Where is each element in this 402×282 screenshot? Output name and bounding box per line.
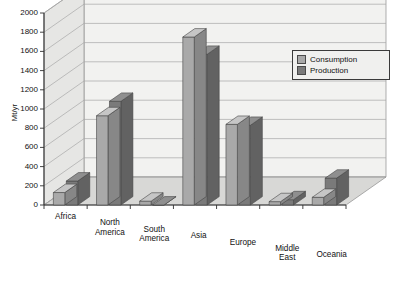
- chart-container: Mt/yr 0200400600800100012001400160018002…: [0, 0, 402, 282]
- bar-asia-consumption: [183, 29, 206, 205]
- y-axis-tick-label: 600: [2, 142, 38, 151]
- legend-label-production: Production: [310, 66, 348, 75]
- legend-label-consumption: Consumption: [310, 55, 357, 64]
- chart-legend: Consumption Production: [292, 50, 390, 80]
- y-axis-tick-label: 1400: [2, 66, 38, 75]
- legend-item-production: Production: [297, 65, 383, 76]
- legend-swatch-production: [297, 66, 306, 75]
- y-axis-tick-label: 0: [2, 200, 38, 209]
- y-axis-tick-label: 200: [2, 181, 38, 190]
- bar-north-america-consumption: [97, 107, 120, 205]
- legend-swatch-consumption: [297, 55, 306, 64]
- y-axis-tick-label: 1600: [2, 46, 38, 55]
- y-axis-tick-label: 2000: [2, 8, 38, 17]
- legend-item-consumption: Consumption: [297, 54, 383, 65]
- y-axis-tick-label: 1000: [2, 104, 38, 113]
- y-axis-tick-label: 800: [2, 123, 38, 132]
- y-axis-tick-label: 400: [2, 162, 38, 171]
- y-axis-tick-label: 1200: [2, 85, 38, 94]
- y-axis-tick-label: 1800: [2, 27, 38, 36]
- bar-europe-consumption: [226, 116, 249, 205]
- x-axis-category-label: Oceania: [304, 250, 360, 259]
